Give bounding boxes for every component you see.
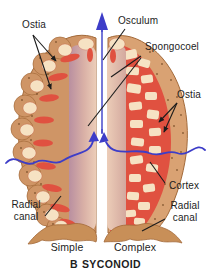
figure-caption: BSYCONOID (0, 258, 211, 270)
label-complex: Complex (108, 242, 162, 254)
osculum-outflow-arrow (96, 12, 108, 133)
caption-title: SYCONOID (82, 258, 141, 270)
label-simple: Simple (45, 242, 89, 254)
caption-letter: B (70, 258, 78, 270)
label-ostia-right: Ostia (170, 89, 208, 101)
label-ostia-left: Ostia (16, 19, 52, 31)
label-spongocoel: Spongocoel (140, 41, 204, 53)
label-osculum: Osculum (112, 15, 164, 27)
syconoid-figure: Ostia Osculum Spongocoel Ostia Cortex Ra… (0, 0, 211, 274)
label-radial-canal-right: Radial canal (163, 200, 207, 223)
label-radial-canal-left: Radial canal (4, 199, 48, 222)
label-cortex: Cortex (164, 180, 204, 192)
